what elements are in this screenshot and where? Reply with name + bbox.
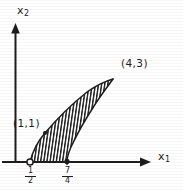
point-label-4-3: (4,3) — [121, 58, 148, 69]
y-axis-label: x2 — [17, 5, 29, 18]
y-axis-arrowhead — [11, 23, 20, 34]
filled-dot-marker — [64, 159, 69, 164]
y-axis-label-subscript: 2 — [24, 9, 29, 18]
x-axis-label-text: x — [158, 150, 165, 163]
tick-label-seven-fourths: 7 4 — [62, 167, 73, 185]
point-label-1-1: (1,1) — [13, 118, 40, 129]
y-axis — [11, 23, 20, 163]
tick-label-one-half-numerator: 1 — [25, 167, 36, 175]
tick-label-seven-fourths-denominator: 4 — [62, 177, 73, 185]
figure-canvas: x2 x1 (1,1) (4,3) 1 2 7 4 — [0, 0, 183, 190]
x-axis-label: x1 — [158, 151, 170, 164]
tick-label-seven-fourths-numerator: 7 — [62, 167, 73, 175]
x-axis-label-subscript: 1 — [165, 155, 170, 164]
x-axis-arrowhead — [140, 158, 151, 167]
tick-label-one-half: 1 2 — [25, 167, 36, 185]
tick-label-one-half-denominator: 2 — [25, 177, 36, 185]
curve-point-marker — [43, 131, 47, 135]
x-axis — [2, 158, 151, 167]
open-circle-marker — [27, 159, 33, 165]
y-axis-label-text: x — [17, 4, 24, 17]
figure-graphic — [0, 0, 183, 190]
